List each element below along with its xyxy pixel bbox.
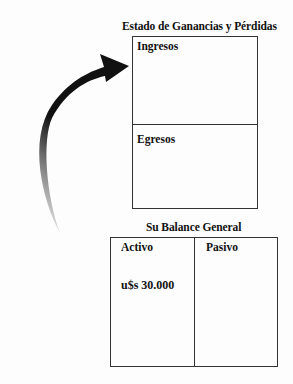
balance-sheet-title: Su Balance General [146,221,241,233]
expenses-label: Egresos [137,133,175,145]
assets-label: Activo [121,241,153,253]
income-statement-box [132,36,258,209]
liabilities-label: Pasivo [206,241,238,253]
balance-sheet-divider [194,237,195,367]
income-statement-divider [132,124,258,125]
income-statement-title: Estado de Ganancias y Pérdidas [122,20,277,32]
assets-value: u$s 30.000 [121,278,174,293]
income-label: Ingresos [137,40,178,52]
